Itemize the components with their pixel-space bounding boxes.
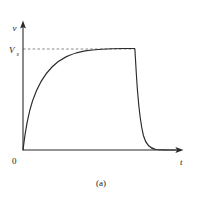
figure-container: v V s t 0 (a) [0, 0, 204, 197]
curve-v-of-t [23, 49, 176, 151]
reference-level-label: V [9, 45, 16, 55]
plot-canvas: v V s t 0 (a) [0, 0, 204, 197]
figure-caption: (a) [96, 178, 106, 188]
reference-level-subscript: s [17, 51, 20, 57]
x-axis-label: t [180, 157, 183, 167]
y-axis-label: v [13, 23, 17, 33]
origin-label: 0 [12, 156, 17, 166]
